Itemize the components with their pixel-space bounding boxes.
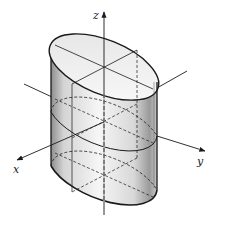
z-axis-label: z: [92, 9, 99, 22]
x-axis-back-segment: [157, 71, 187, 88]
y-axis-back-segment: [24, 84, 52, 97]
y-axis-label: y: [196, 155, 204, 168]
x-axis-label: x: [13, 163, 20, 176]
figure: z x y: [0, 0, 225, 228]
elliptic-cylinder-diagram: z x y: [0, 0, 225, 228]
y-axis: [157, 136, 205, 151]
